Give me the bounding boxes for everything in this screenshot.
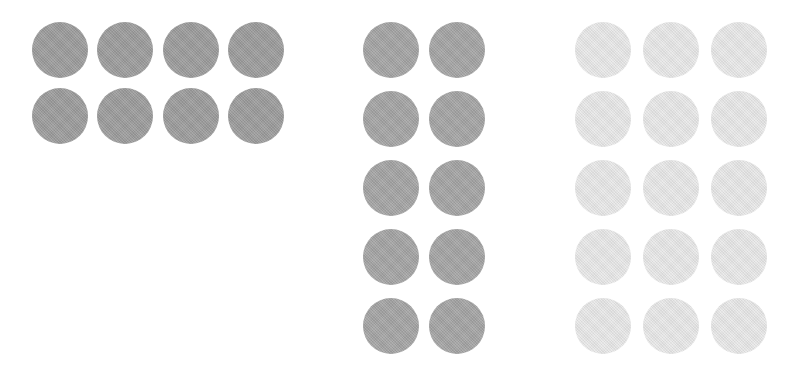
dot [97, 88, 153, 144]
dot [711, 229, 767, 285]
dot [429, 22, 485, 78]
dot [32, 88, 88, 144]
dot [575, 91, 631, 147]
dot [97, 22, 153, 78]
dot [429, 160, 485, 216]
dot [363, 91, 419, 147]
dot [711, 22, 767, 78]
dot [363, 298, 419, 354]
dot [643, 229, 699, 285]
dot [575, 22, 631, 78]
dot [575, 229, 631, 285]
dot [643, 91, 699, 147]
dot [228, 88, 284, 144]
dot [163, 22, 219, 78]
dot [711, 298, 767, 354]
dot [429, 229, 485, 285]
dot [643, 298, 699, 354]
dot [429, 91, 485, 147]
dot [575, 298, 631, 354]
dot [363, 22, 419, 78]
dot [711, 160, 767, 216]
dot [363, 229, 419, 285]
dot [643, 22, 699, 78]
dot [575, 160, 631, 216]
dot-array-canvas [0, 0, 800, 372]
dot [163, 88, 219, 144]
dot [32, 22, 88, 78]
dot [429, 298, 485, 354]
dot [363, 160, 419, 216]
dot [228, 22, 284, 78]
dot [643, 160, 699, 216]
dot [711, 91, 767, 147]
